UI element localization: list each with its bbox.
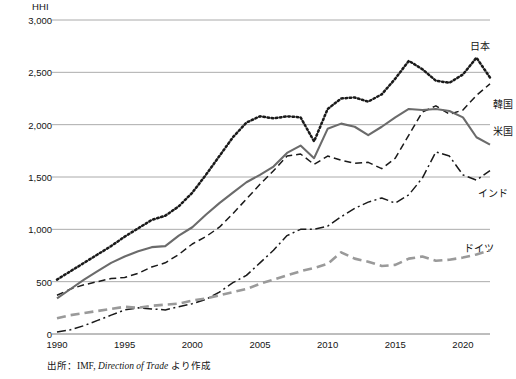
source-prefix: 出所：IMF, (47, 361, 98, 371)
source-note: 出所：IMF, Direction of Trade より作成 (47, 358, 211, 372)
plot-area (0, 0, 516, 379)
series-line-3 (57, 152, 490, 332)
series-line-0 (57, 58, 490, 280)
series-line-2 (57, 109, 490, 298)
series-line-4 (57, 250, 490, 318)
series-line-1 (57, 84, 490, 295)
chart-container: HHI 05001,0001,5002,0002,5003,000 199019… (0, 0, 516, 379)
source-italic: Direction of Trade (98, 361, 168, 371)
source-suffix: より作成 (168, 361, 210, 371)
